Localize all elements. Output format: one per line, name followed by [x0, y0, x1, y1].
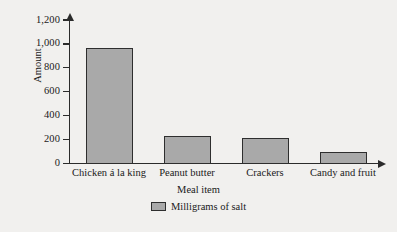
y-tick-label: 0 [0, 158, 60, 169]
x-axis-title: Meal item [0, 184, 397, 195]
y-tick-label: 800 [0, 62, 60, 73]
y-tick-label: 400 [0, 110, 60, 121]
y-tick-label: 200 [0, 134, 60, 145]
legend-label: Milligrams of salt [171, 201, 246, 212]
legend: Milligrams of salt [0, 201, 397, 212]
x-tick-label: Candy and fruit [298, 167, 388, 179]
y-tick-label: 600 [0, 86, 60, 97]
y-tick-mark [63, 43, 70, 44]
y-tick-mark [63, 91, 70, 92]
bar [164, 136, 211, 164]
bar [320, 152, 367, 164]
y-tick-mark [63, 19, 70, 20]
x-tick-label: Chicken á la king [64, 167, 154, 179]
y-tick-mark [63, 163, 70, 164]
y-tick-mark [63, 115, 70, 116]
bar [86, 48, 133, 164]
x-tick-label: Crackers [220, 167, 310, 179]
x-tick-label: Peanut butter [142, 167, 232, 179]
y-tick-label: 1,200 [0, 15, 60, 26]
y-tick-label: 1,000 [0, 38, 60, 49]
y-tick-mark [63, 139, 70, 140]
y-tick-mark [63, 67, 70, 68]
bar [242, 138, 289, 163]
legend-swatch-icon [151, 202, 166, 211]
chart-canvas: Amount 02004006008001,0001,200 Chicken á… [0, 0, 397, 232]
